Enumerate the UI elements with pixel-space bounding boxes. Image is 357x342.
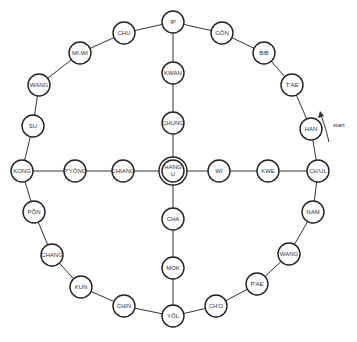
node-miwi: MI-WI (69, 42, 91, 64)
node-label: NAM (306, 209, 319, 215)
node-label: KWAN (164, 70, 182, 76)
nodes: IPGŎNBIBT'AEHANCH'ULNAMWANGP'AECH'OYŎLCH… (11, 11, 329, 327)
node-pon: PŎN (23, 201, 45, 223)
node-kwe: KWE (257, 160, 279, 182)
node-label: IP (170, 19, 176, 25)
node-center-hangu: HANGU (159, 157, 187, 185)
node-label: BIB (259, 50, 269, 56)
node-su: SU (22, 115, 44, 137)
node-label: T'AE (286, 82, 299, 88)
node-bib: BIB (253, 42, 275, 64)
node-chin: CHIN (113, 295, 135, 317)
node-label: SU (29, 123, 37, 129)
start-label: start (333, 122, 345, 128)
node-label: GŎN (215, 30, 229, 36)
node-chu: CHU (113, 22, 135, 44)
node-label: PŎN (27, 209, 40, 215)
node-label: CH'UL (309, 168, 327, 174)
node-label: CHANG (41, 252, 63, 258)
node-label: P'YŎNG (64, 168, 87, 174)
node-kwan: KWAN (162, 62, 184, 84)
node-label: CHUNG (162, 120, 184, 126)
node-label: WANG (280, 251, 299, 257)
node-label: CHU (118, 30, 131, 36)
arrowhead-icon (318, 111, 324, 118)
node-cha: CHA (162, 208, 184, 230)
node-label: YŎL (167, 313, 180, 319)
node-label: CHIANG (111, 168, 135, 174)
node-pyong: P'YŎNG (64, 160, 87, 182)
node-pae: P'AE (246, 273, 268, 295)
node-han: HAN (300, 118, 322, 140)
node-cho: CH'O (205, 295, 227, 317)
node-ip: IP (162, 11, 184, 33)
node-wang_r: WANG (278, 243, 300, 265)
node-chung: CHUNG (162, 112, 184, 134)
node-label: KONG (13, 168, 31, 174)
node-chiang: CHIANG (111, 160, 135, 182)
node-label: MOK (166, 265, 180, 271)
node-chul: CH'UL (307, 160, 329, 182)
node-label: CH'O (209, 303, 224, 309)
node-wi: WI (208, 160, 230, 182)
node-label: KWE (261, 168, 275, 174)
node-label: CHA (167, 216, 180, 222)
node-chang_l: CHANG (41, 244, 63, 266)
node-label: CHIN (117, 303, 132, 309)
node-yol: YŎL (162, 305, 184, 327)
node-label: WANG (30, 82, 49, 88)
node-label: KUN (75, 284, 88, 290)
node-label: HAN (305, 126, 318, 132)
node-kong: KONG (11, 160, 33, 182)
node-nam: NAM (302, 201, 324, 223)
node-tae: T'AE (281, 74, 303, 96)
node-label: P'AE (250, 281, 263, 287)
center-label-line2: U (171, 171, 175, 177)
node-label: WI (215, 168, 223, 174)
circular-node-diagram: IPGŎNBIBT'AEHANCH'ULNAMWANGP'AECH'OYŎLCH… (0, 0, 357, 342)
node-wang_l: WANG (28, 74, 50, 96)
node-kun: KUN (70, 276, 92, 298)
node-mok: MOK (162, 257, 184, 279)
node-gon: GŎN (211, 22, 233, 44)
node-label: MI-WI (72, 50, 88, 56)
center-label-line1: HANG (164, 164, 182, 170)
